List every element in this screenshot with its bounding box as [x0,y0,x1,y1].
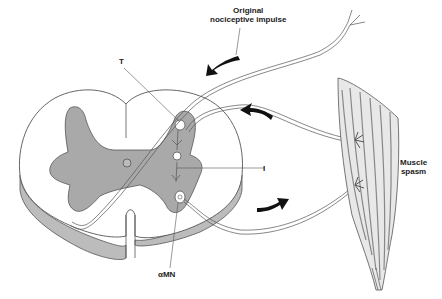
label-original-impulse: Original nociceptive impulse [210,6,286,24]
anterior-fissure [126,215,135,258]
arrow-impulse [206,56,240,76]
label-T: T [119,57,124,66]
central-canal [123,159,131,167]
arrow-afferent [240,103,273,120]
leader-impulse [236,28,240,55]
label-muscle-spasm: Muscle spasm [400,158,427,176]
arrow-efferent [257,198,289,212]
muscle [338,78,399,290]
label-I: I [263,164,265,173]
neuron-I [173,152,181,160]
spinal-reflex-diagram [0,0,442,299]
label-alpha-mn: αMN [158,270,175,279]
neuron-alpha-mn [175,191,185,203]
